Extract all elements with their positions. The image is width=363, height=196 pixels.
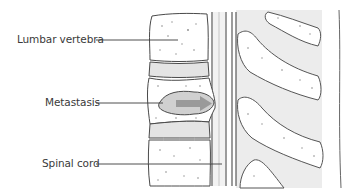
label-metastasis: Metastasis [45, 96, 100, 108]
spine-diagram: Lumbar vertebra Metastasis Spinal cord [0, 0, 363, 196]
label-lumbar-vertebra: Lumbar vertebra [17, 33, 104, 45]
label-spinal-cord: Spinal cord [42, 157, 100, 169]
lower-vertebra [148, 140, 210, 186]
posterior-outline [339, 10, 341, 188]
upper-vertebra [149, 13, 209, 77]
